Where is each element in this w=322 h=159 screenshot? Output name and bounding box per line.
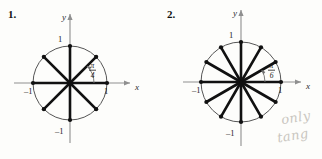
figure-2-tick-x-negative: –1 — [191, 85, 201, 95]
figure-1-unit-circle-pi-over-4: 1. — [0, 0, 161, 159]
figure-1-tick-y-negative: –1 — [54, 126, 64, 136]
figure-1-axes — [14, 14, 130, 143]
figure-2-angle-arc — [262, 70, 266, 82]
figure-2-tick-y-positive: 1 — [229, 30, 233, 40]
figure-1-angle-numerator: π — [91, 61, 95, 70]
figure-2-y-axis-label: y — [232, 8, 237, 18]
figure-2-tick-x-positive: 1 — [278, 85, 282, 95]
figure-1-angle-denominator: 4 — [91, 71, 95, 80]
figure-1-x-axis-label: x — [134, 82, 139, 92]
figure-2-angle-numerator: π — [270, 61, 274, 70]
figure-1-svg: π 4 x y 1 –1 1 –1 — [0, 0, 161, 159]
figure-1-y-axis-label: y — [61, 12, 66, 22]
figure-2-angle-denominator: 6 — [270, 71, 274, 80]
figure-2-tick-y-negative: –1 — [225, 128, 235, 138]
figure-1-tick-x-negative: –1 — [23, 86, 33, 96]
worksheet-page: 1. — [0, 0, 322, 159]
figure-1-angle-label: π 4 — [89, 61, 96, 80]
figure-2-x-axis-label: x — [305, 81, 310, 91]
figure-1-tick-x-positive: 1 — [104, 86, 108, 96]
figure-1-tick-y-positive: 1 — [58, 34, 62, 44]
